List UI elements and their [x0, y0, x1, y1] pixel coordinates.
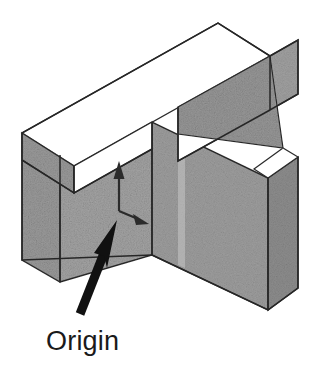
origin-label: Origin: [46, 328, 119, 355]
slab-right-end-face: [268, 157, 298, 310]
isometric-block-illustration: [0, 0, 325, 376]
figure-canvas: Origin: [0, 0, 325, 376]
